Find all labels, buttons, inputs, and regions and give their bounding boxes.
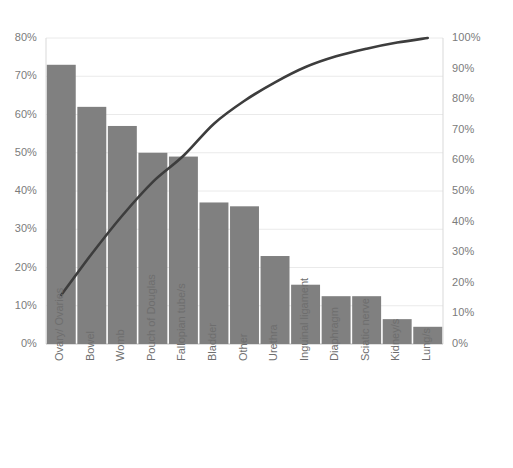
right-axis-tick: 10%	[452, 307, 474, 318]
category-label: Diaphragm	[329, 307, 340, 361]
right-axis-tick: 80%	[452, 93, 474, 104]
left-axis-tick: 70%	[0, 70, 37, 81]
left-axis-tick: 20%	[0, 262, 37, 273]
category-label: Other	[238, 333, 249, 361]
category-label: Bladder	[207, 323, 218, 361]
right-axis-tick: 40%	[452, 216, 474, 227]
bar	[230, 206, 259, 344]
right-axis-tick: 100%	[452, 32, 481, 43]
right-axis-tick: 70%	[452, 124, 474, 135]
pareto-chart: 80%70%60%50%40%30%20%10%0% 100%90%80%70%…	[0, 0, 513, 468]
category-label: Bowel	[85, 331, 96, 361]
right-axis-tick: 0%	[452, 338, 468, 349]
right-axis-tick: 50%	[452, 185, 474, 196]
left-axis-tick: 10%	[0, 300, 37, 311]
left-axis-tick: 50%	[0, 147, 37, 158]
chart-canvas	[0, 0, 513, 468]
left-axis-tick: 0%	[0, 338, 37, 349]
right-axis-tick: 60%	[452, 154, 474, 165]
category-label: Urethra	[268, 324, 279, 361]
right-axis-tick: 30%	[452, 246, 474, 257]
category-label: Lung/s	[421, 328, 432, 361]
left-axis-tick: 80%	[0, 32, 37, 43]
left-axis-tick: 40%	[0, 185, 37, 196]
right-axis-tick: 20%	[452, 277, 474, 288]
category-label: Fallopian tube/s	[176, 283, 187, 361]
category-label: Kidney/s	[390, 319, 401, 361]
right-axis-tick: 90%	[452, 63, 474, 74]
category-label: Inguinal ligament	[299, 278, 310, 361]
category-label: Pouch of Douglas	[146, 274, 157, 361]
category-label: Ovary/ Ovaries	[54, 288, 65, 361]
category-label: Sciatic nerve	[360, 298, 371, 361]
bar	[77, 107, 106, 344]
category-label: Womb	[115, 329, 126, 361]
left-axis-tick: 30%	[0, 223, 37, 234]
left-axis-tick: 60%	[0, 109, 37, 120]
bar	[108, 126, 137, 344]
